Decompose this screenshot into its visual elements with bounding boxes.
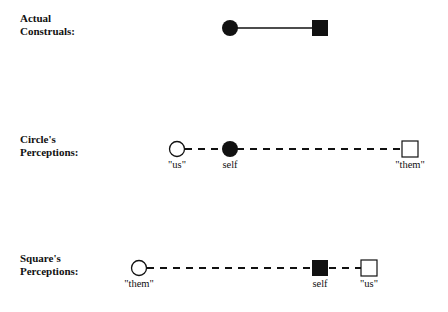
- node-label-us: "us": [168, 159, 186, 170]
- open-circle-icon: [170, 142, 185, 157]
- filled-circle-icon: [222, 20, 238, 36]
- node-label-us: "us": [360, 278, 378, 289]
- node-label-them: "them": [124, 278, 154, 289]
- actual-construals-row: [222, 20, 328, 36]
- filled-square-icon: [312, 20, 328, 36]
- diagram-canvas: [0, 0, 448, 312]
- filled-circle-icon: [222, 141, 238, 157]
- node-label-self: self: [222, 159, 237, 170]
- open-circle-icon: [132, 261, 147, 276]
- node-label-self: self: [312, 278, 327, 289]
- squares-perceptions-row: [132, 260, 378, 276]
- filled-square-icon: [312, 260, 328, 276]
- circles-perceptions-row: [170, 141, 419, 157]
- node-label-them: "them": [395, 159, 425, 170]
- open-square-icon: [361, 260, 377, 276]
- open-square-icon: [402, 141, 418, 157]
